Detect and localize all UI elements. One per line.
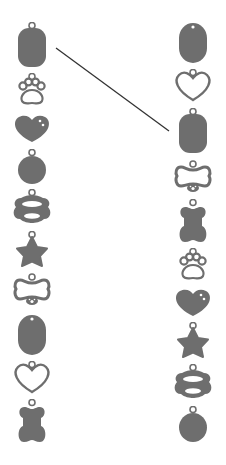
bone-filled-icon	[168, 199, 218, 244]
star-icon	[7, 231, 57, 269]
paw-outline-icon	[7, 73, 57, 107]
right-item-bone-filled[interactable]	[168, 199, 218, 244]
left-item-bone-filled[interactable]	[7, 399, 57, 444]
connection-line[interactable]	[56, 48, 169, 131]
right-item-heart-dots[interactable]	[168, 287, 218, 317]
right-item-paw-outline[interactable]	[168, 248, 218, 282]
rect-tag-icon	[168, 108, 218, 154]
heart-dots-icon	[168, 287, 218, 317]
left-item-oval-tag[interactable]	[7, 314, 57, 356]
heart-dots-icon	[7, 113, 57, 143]
oval-tag-icon	[168, 22, 218, 64]
bone-ring-icon	[168, 364, 218, 402]
paw-outline-icon	[168, 248, 218, 282]
rect-tag-icon	[7, 22, 57, 68]
circle-tag-icon	[7, 149, 57, 185]
left-item-paw-outline[interactable]	[7, 73, 57, 107]
bone-ring-icon	[7, 189, 57, 227]
heart-outline-icon	[7, 361, 57, 394]
bone-outline-paw-icon	[168, 160, 218, 194]
bone-filled-icon	[7, 399, 57, 444]
left-column	[7, 0, 57, 465]
right-item-oval-tag[interactable]	[168, 22, 218, 64]
left-item-rect-tag[interactable]	[7, 22, 57, 68]
left-item-bone-ring[interactable]	[7, 189, 57, 227]
right-item-bone-outline-paw[interactable]	[168, 160, 218, 194]
right-item-bone-ring[interactable]	[168, 364, 218, 402]
star-icon	[168, 322, 218, 360]
oval-tag-icon	[7, 314, 57, 356]
heart-outline-icon	[168, 69, 218, 102]
right-item-star[interactable]	[168, 322, 218, 360]
bone-outline-paw-icon	[7, 273, 57, 307]
left-item-heart-dots[interactable]	[7, 113, 57, 143]
left-item-circle-tag[interactable]	[7, 149, 57, 185]
left-item-star[interactable]	[7, 231, 57, 269]
right-column	[168, 0, 218, 465]
left-item-heart-outline[interactable]	[7, 361, 57, 394]
circle-tag-icon	[168, 406, 218, 443]
right-item-rect-tag[interactable]	[168, 108, 218, 154]
left-item-bone-outline-paw[interactable]	[7, 273, 57, 307]
right-item-heart-outline[interactable]	[168, 69, 218, 102]
right-item-circle-tag[interactable]	[168, 406, 218, 443]
